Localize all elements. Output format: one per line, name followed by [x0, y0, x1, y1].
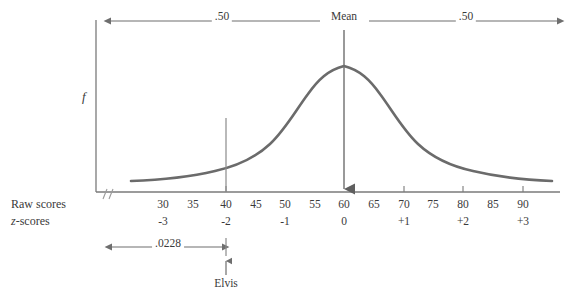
- z-score-label: +1: [398, 216, 410, 228]
- raw-score-label: 45: [250, 199, 262, 211]
- mean-label: Mean: [328, 11, 360, 23]
- normal-curve: [131, 66, 552, 181]
- raw-score-label: 50: [279, 199, 291, 211]
- raw-score-label: 70: [398, 199, 410, 211]
- z-score-label: +2: [457, 216, 469, 228]
- raw-score-label: 55: [309, 199, 321, 211]
- raw-score-label: 85: [487, 199, 499, 211]
- tail-area-label: .0228: [152, 238, 184, 250]
- elvis-marker-label: Elvis: [214, 278, 238, 290]
- z-scores-row-label: z-scores: [11, 215, 50, 227]
- x-axis-ticks: [226, 186, 523, 192]
- z-scores-row-label-suffix: -scores: [16, 214, 50, 228]
- axis-break-icon: [103, 189, 113, 199]
- raw-score-label: 80: [457, 199, 469, 211]
- raw-score-label: 35: [187, 199, 199, 211]
- raw-score-label: 65: [368, 199, 380, 211]
- y-axis-label: f: [82, 90, 86, 103]
- raw-scores-row-label: Raw scores: [11, 198, 66, 210]
- raw-score-label: 30: [157, 199, 169, 211]
- z-score-label: 0: [341, 216, 347, 228]
- raw-score-label: 60: [338, 199, 350, 211]
- raw-score-label: 75: [427, 199, 439, 211]
- left-half-area-label: .50: [212, 11, 232, 23]
- raw-score-label: 40: [220, 199, 232, 211]
- z-score-label: -1: [280, 216, 290, 228]
- raw-score-label: 90: [517, 199, 529, 211]
- z-score-label: +3: [517, 216, 529, 228]
- z-score-label: -2: [221, 216, 231, 228]
- normal-distribution-figure: f .50 Mean .50 Raw scores z-scores 30 35…: [0, 0, 581, 298]
- z-score-label: -3: [158, 216, 168, 228]
- figure-canvas: [0, 0, 581, 298]
- right-half-area-label: .50: [456, 11, 476, 23]
